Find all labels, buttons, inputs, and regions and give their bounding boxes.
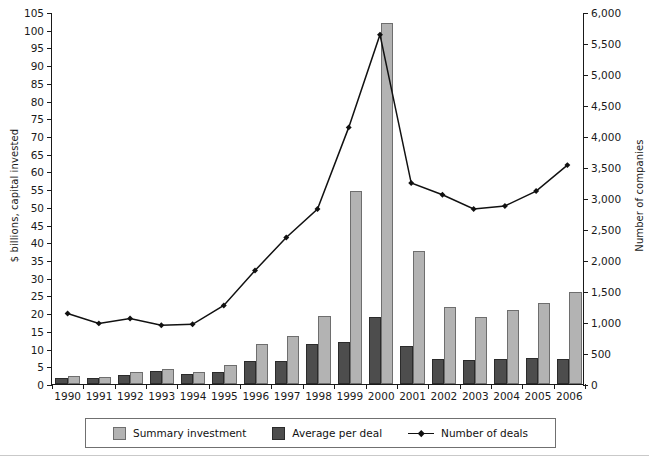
x-axis-tick	[366, 384, 367, 389]
x-axis-tick	[460, 384, 461, 389]
x-axis-tick	[334, 384, 335, 389]
y-axis-left-tick-label: 0	[37, 380, 44, 391]
y-axis-right-tick	[583, 13, 588, 14]
y-axis-right-tick	[583, 261, 588, 262]
y-axis-right-tick	[583, 75, 588, 76]
y-axis-left-tick-label: 50	[31, 203, 44, 214]
line-marker-1990	[65, 311, 71, 317]
x-axis-tick	[177, 384, 178, 389]
y-axis-right-tick-label: 4,500	[591, 101, 621, 112]
legend-label: Summary investment	[133, 427, 246, 439]
x-axis-tick	[428, 384, 429, 389]
legend-item-summary-investment[interactable]: Summary investment	[113, 427, 246, 440]
y-axis-left-tick-label: 55	[31, 185, 44, 196]
y-axis-left-tick-label: 35	[31, 256, 44, 267]
line-marker-1993	[158, 322, 164, 328]
x-axis-tick	[303, 384, 304, 389]
bottom-divider	[0, 455, 649, 456]
y-axis-right-tick-label: 3,000	[591, 194, 621, 205]
y-axis-left-tick-label: 10	[31, 344, 44, 355]
line-marker-2002	[439, 192, 445, 198]
y-axis-right-tick-label: 1,000	[591, 318, 621, 329]
y-axis-right-tick-label: 500	[591, 349, 611, 360]
x-axis-tick	[491, 384, 492, 389]
x-axis-tick	[271, 384, 272, 389]
y-axis-left-tick-label: 80	[31, 96, 44, 107]
line-marker-2003	[471, 206, 477, 212]
legend-swatch-icon	[113, 427, 126, 440]
y-axis-right-tick-label: 1,500	[591, 287, 621, 298]
y-axis-left-tick-label: 100	[24, 25, 44, 36]
y-axis-left-tick-label: 15	[31, 327, 44, 338]
y-axis-left-tick-label: 60	[31, 167, 44, 178]
y-axis-left-tick-label: 65	[31, 149, 44, 160]
x-axis-tick	[83, 384, 84, 389]
plot-area: 0510152025303540455055606570758085909510…	[51, 13, 584, 385]
x-axis-tick	[585, 384, 586, 389]
y-axis-right-tick-label: 5,500	[591, 39, 621, 50]
x-axis-tick	[115, 384, 116, 389]
legend-swatch-icon	[272, 427, 285, 440]
line-marker-1991	[96, 320, 102, 326]
y-axis-left-tick-label: 25	[31, 291, 44, 302]
y-axis-left-tick-label: 90	[31, 61, 44, 72]
y-axis-right-tick	[583, 137, 588, 138]
y-axis-left-tick-label: 45	[31, 220, 44, 231]
line-marker-1992	[127, 315, 133, 321]
legend-label: Average per deal	[292, 427, 382, 439]
y-axis-left-tick-label: 30	[31, 273, 44, 284]
y-axis-right-tick-label: 4,000	[591, 132, 621, 143]
x-axis-tick	[209, 384, 210, 389]
x-axis-tick	[397, 384, 398, 389]
y-axis-left-tick-label: 95	[31, 43, 44, 54]
legend-line-marker-icon	[408, 428, 434, 438]
line-marker-2001	[408, 180, 414, 186]
x-axis-tick	[146, 384, 147, 389]
y-axis-left-tick-label: 85	[31, 79, 44, 90]
y-axis-right-tick	[583, 44, 588, 45]
x-axis-tick	[52, 384, 53, 389]
y-axis-left-tick-label: 105	[24, 8, 44, 19]
line-marker-2000	[377, 32, 383, 38]
y-axis-right-tick-label: 6,000	[591, 8, 621, 19]
x-axis-tick	[554, 384, 555, 389]
y-axis-left-tick-label: 70	[31, 132, 44, 143]
legend-item-number-of-deals[interactable]: Number of deals	[408, 427, 528, 439]
y-axis-right-tick-label: 2,000	[591, 256, 621, 267]
y-axis-right-tick	[583, 168, 588, 169]
y-axis-right-tick	[583, 230, 588, 231]
y-axis-right-tick	[583, 106, 588, 107]
x-axis-tick	[240, 384, 241, 389]
y-axis-right-tick-label: 5,000	[591, 70, 621, 81]
y-axis-left-title: $ billions, capital invested	[9, 96, 20, 296]
y-axis-right-tick	[583, 199, 588, 200]
legend-item-average-per-deal[interactable]: Average per deal	[272, 427, 382, 440]
x-axis-tick	[522, 384, 523, 389]
y-axis-left-tick-label: 20	[31, 309, 44, 320]
y-axis-right-tick-label: 0	[591, 380, 598, 391]
y-axis-right-title: Number of companies	[634, 96, 645, 296]
line-path-number-of-deals	[68, 35, 568, 326]
y-axis-right-tick-label: 2,500	[591, 225, 621, 236]
y-axis-right-tick-label: 3,500	[591, 163, 621, 174]
line-marker-1999	[346, 124, 352, 130]
legend-label: Number of deals	[441, 427, 528, 439]
chart-legend: Summary investmentAverage per dealNumber…	[85, 418, 556, 448]
line-series-number-of-deals	[52, 13, 583, 384]
chart-figure: $ billions, capital invested Number of c…	[0, 0, 649, 460]
y-axis-left-tick-label: 40	[31, 238, 44, 249]
y-axis-left-tick-label: 5	[37, 362, 44, 373]
line-marker-2004	[502, 203, 508, 209]
y-axis-left-tick-label: 75	[31, 114, 44, 125]
